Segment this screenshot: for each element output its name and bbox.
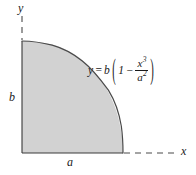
figure-container: y x b a y = b ( 1 − x3 a2 ) xyxy=(0,0,196,175)
equation-denominator: a2 xyxy=(136,72,148,84)
figure-graphic xyxy=(0,0,196,175)
equation-numerator: x3 xyxy=(136,58,147,70)
height-dimension-label: b xyxy=(9,91,15,103)
curve-equation: y = b ( 1 − x3 a2 ) xyxy=(88,58,156,84)
width-dimension-label: a xyxy=(67,156,73,168)
denominator-exponent: 2 xyxy=(143,69,147,78)
equation-fraction: x3 a2 xyxy=(135,58,148,84)
equation-minus-sign: − xyxy=(126,65,133,77)
equation-lhs: y xyxy=(88,65,93,77)
denominator-base: a xyxy=(137,71,143,83)
equation-one: 1 xyxy=(118,65,124,77)
equation-coefficient: b xyxy=(104,65,110,77)
equation-open-paren: ( xyxy=(112,56,116,85)
numerator-exponent: 3 xyxy=(143,55,147,64)
equation-close-paren: ) xyxy=(151,56,155,85)
numerator-base: x xyxy=(137,57,142,69)
x-axis-label: x xyxy=(181,145,186,157)
y-axis-label: y xyxy=(18,2,23,14)
equation-equals-sign: = xyxy=(96,65,103,77)
